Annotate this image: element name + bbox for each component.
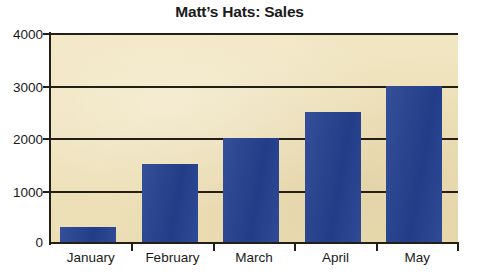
bar-march bbox=[223, 138, 279, 243]
plot-area bbox=[50, 33, 458, 243]
bar-chart-figure: Matt’s Hats: Sales 4000 3000 2000 1000 0… bbox=[0, 0, 479, 280]
y-tick-label-3000: 3000 bbox=[1, 79, 43, 94]
bar-may bbox=[386, 86, 442, 244]
y-axis-labels: 4000 3000 2000 1000 0 bbox=[0, 0, 43, 280]
y-tick-label-1000: 1000 bbox=[1, 184, 43, 199]
y-tick-mark-4000 bbox=[43, 33, 50, 35]
y-tick-label-2000: 2000 bbox=[1, 132, 43, 147]
x-tick-label-may: May bbox=[376, 250, 458, 265]
x-tick-label-january: January bbox=[50, 250, 132, 265]
gridline-4000 bbox=[50, 33, 458, 35]
y-tick-label-4000: 4000 bbox=[1, 27, 43, 42]
y-tick-mark-1000 bbox=[43, 191, 50, 193]
y-tick-mark-3000 bbox=[43, 86, 50, 88]
y-tick-mark-2000 bbox=[43, 138, 50, 140]
bar-february bbox=[142, 164, 198, 243]
x-tick-label-february: February bbox=[132, 250, 214, 265]
chart-title: Matt’s Hats: Sales bbox=[0, 3, 479, 21]
bar-april bbox=[305, 112, 361, 243]
bar-january bbox=[60, 227, 116, 243]
x-axis-line bbox=[49, 242, 459, 244]
x-tick-label-march: March bbox=[213, 250, 295, 265]
y-tick-label-0: 0 bbox=[1, 235, 43, 250]
x-tick-label-april: April bbox=[295, 250, 377, 265]
